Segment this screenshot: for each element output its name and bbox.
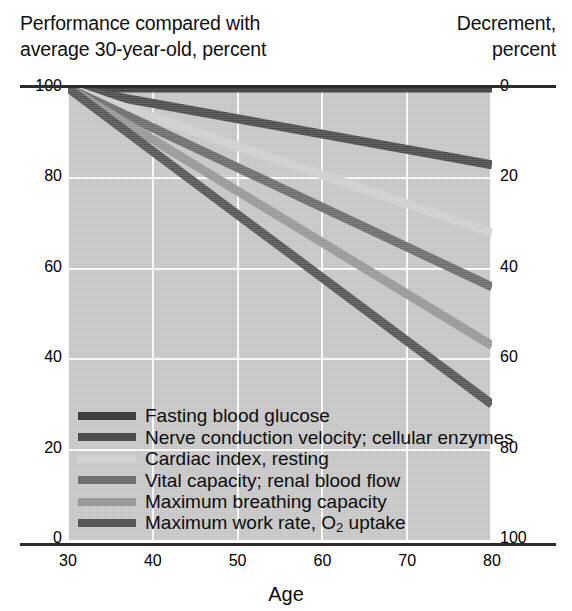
legend-item: Fasting blood glucose [78,405,514,427]
legend-item: Maximum breathing capacity [78,491,514,513]
y-axis-left-tick-label: 60 [4,258,62,276]
legend-swatch [78,519,136,527]
y-axis-left-tick-label: 80 [4,167,62,185]
legend-label: Fasting blood glucose [145,405,330,426]
legend-swatch [78,433,136,441]
series-line [68,88,492,233]
legend-swatch [78,412,136,420]
series-line [68,88,492,404]
y-axis-right-tick-label: 60 [500,348,562,366]
legend-item: Vital capacity; renal blood flow [78,470,514,492]
chart-title-right-line2: percent [492,38,556,60]
top-axis-rule [20,85,556,88]
y-axis-left-tick-label: 20 [4,439,62,457]
x-axis-tick-label: 70 [377,552,437,570]
x-axis-tick-label: 40 [123,552,183,570]
legend-item: Nerve conduction velocity; cellular enzy… [78,427,514,449]
x-axis-tick-label: 50 [208,552,268,570]
y-axis-right-tick-label: 40 [500,258,562,276]
legend-item: Maximum work rate, O2 uptake [78,513,514,535]
y-axis-right-tick-label: 20 [500,167,562,185]
legend-label: Cardiac index, resting [145,448,329,469]
chart-title-left-line2: average 30-year-old, percent [20,38,266,60]
legend-label: Maximum work rate, O2 uptake [145,512,406,535]
legend-item: Cardiac index, resting [78,448,514,470]
chart-title-right: Decrement,percent [457,10,556,62]
bottom-axis-rule [20,543,556,546]
x-axis-tick-label: 30 [38,552,98,570]
legend-label: Vital capacity; renal blood flow [145,470,400,491]
chart-figure: Performance compared withaverage 30-year… [0,0,572,611]
chart-legend: Fasting blood glucoseNerve conduction ve… [78,405,514,534]
chart-title-left: Performance compared withaverage 30-year… [20,10,266,62]
x-axis-tick-label: 60 [292,552,352,570]
y-axis-left-tick-label: 40 [4,348,62,366]
legend-swatch [78,476,136,484]
chart-title-left-line1: Performance compared with [20,12,260,34]
legend-swatch [78,455,136,463]
legend-label: Maximum breathing capacity [145,491,387,512]
x-axis-title: Age [0,583,572,606]
legend-label: Nerve conduction velocity; cellular enzy… [145,427,514,448]
x-axis-tick-label: 80 [462,552,522,570]
chart-title-right-line1: Decrement, [457,12,556,34]
series-line [68,88,492,287]
legend-swatch [78,498,136,506]
